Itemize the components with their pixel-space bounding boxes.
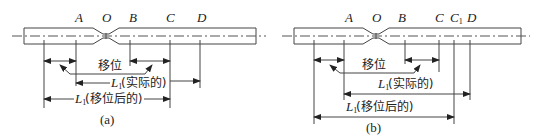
actual-label-text-a: (实际的) <box>121 75 166 90</box>
point-D-a: D <box>196 10 207 25</box>
figure-b: A O B C C1 D 移位 L1 (实际的) L1 (移位后的) (b) <box>282 10 530 135</box>
point-O-b: O <box>372 10 382 25</box>
point-O-a: O <box>102 10 112 25</box>
point-A-b: A <box>344 10 353 25</box>
point-A-a: A <box>74 10 83 25</box>
shifted-label-text-b: (移位后的) <box>356 99 413 114</box>
point-B-b: B <box>398 10 406 25</box>
caption-a: (a) <box>100 112 114 127</box>
shift-label-a: 移位 <box>98 58 122 73</box>
point-C-b: C <box>435 10 444 25</box>
figure-a: A O B C D 移位 L1 (实际的) L1 (移位后的) (a) <box>12 10 266 127</box>
point-B-a: B <box>129 10 137 25</box>
shift-leader-left-b <box>330 65 340 73</box>
shift-leader-left-a <box>60 65 70 74</box>
actual-label-text-b: (实际的) <box>388 76 433 91</box>
caption-b: (b) <box>366 120 381 135</box>
point-C-a: C <box>166 10 175 25</box>
point-D-b: D <box>466 10 477 25</box>
point-C1-b: C1 <box>450 10 463 26</box>
specimen-diagram: A O B C D 移位 L1 (实际的) L1 (移位后的) (a) A <box>0 0 541 140</box>
shifted-label-text-a: (移位后的) <box>85 91 142 106</box>
shift-label-b: 移位 <box>362 57 386 72</box>
